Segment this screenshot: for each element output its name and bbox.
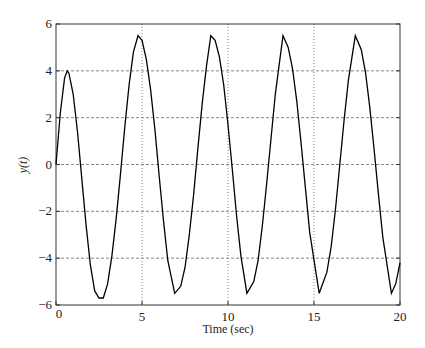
- y-tick-label: 0: [46, 157, 53, 172]
- x-tick-label: 20: [394, 309, 407, 324]
- x-axis-ticks: 05101520: [56, 301, 407, 324]
- y-tick-label: 4: [46, 63, 53, 78]
- y-tick-label: 6: [46, 16, 53, 31]
- y-tick-label: −6: [38, 297, 52, 312]
- x-tick-label: 15: [308, 309, 321, 324]
- chart: 05101520 −6−4−20246 Time (sec) y(t): [0, 0, 425, 348]
- x-tick-label: 5: [139, 309, 146, 324]
- grid-lines: [56, 24, 400, 305]
- y-axis-ticks: −6−4−20246: [38, 16, 400, 312]
- y-tick-label: −2: [38, 203, 52, 218]
- x-tick-label: 0: [56, 306, 63, 321]
- y-axis-label: y(t): [16, 157, 30, 175]
- y-tick-label: 2: [46, 110, 53, 125]
- y-tick-label: −4: [38, 250, 52, 265]
- x-axis-label: Time (sec): [202, 322, 253, 336]
